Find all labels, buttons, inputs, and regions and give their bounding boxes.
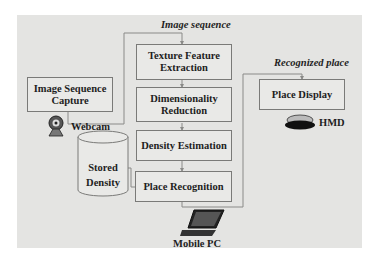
- node-label: Place Display: [272, 89, 332, 101]
- node-texture-feature-extraction: Texture Feature Extraction: [136, 44, 232, 80]
- node-image-sequence-capture: Image Sequence Capture: [27, 77, 113, 112]
- webcam-label: Webcam: [71, 121, 110, 132]
- edge-label-recognized-place: Recognized place: [274, 57, 349, 68]
- node-density-estimation: Density Estimation: [136, 130, 232, 161]
- node-label: Texture Feature Extraction: [148, 50, 220, 74]
- node-place-display: Place Display: [259, 79, 345, 110]
- hmd-icon: [283, 114, 317, 130]
- node-dimensionality-reduction: Dimensionality Reduction: [136, 87, 232, 122]
- edge-label-image-sequence: Image sequence: [161, 19, 231, 30]
- node-label: Place Recognition: [143, 181, 223, 193]
- mobile-pc-label: Mobile PC: [173, 238, 221, 249]
- node-label: Image Sequence Capture: [34, 83, 107, 107]
- laptop-icon: [180, 208, 226, 238]
- webcam-icon: [45, 115, 67, 137]
- node-label: Density Estimation: [141, 140, 226, 152]
- hmd-label: HMD: [319, 117, 345, 128]
- node-place-recognition: Place Recognition: [135, 171, 232, 202]
- node-label: Dimensionality Reduction: [150, 93, 218, 117]
- node-stored-density: Stored Density: [78, 160, 128, 190]
